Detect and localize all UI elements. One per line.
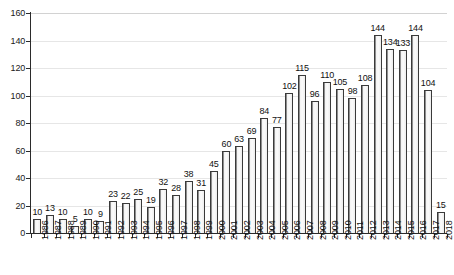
- x-label-2014: 2014: [394, 220, 403, 240]
- x-label-1994: 1994: [142, 220, 151, 240]
- y-tick-label: 60: [1, 147, 25, 156]
- bar-2003: [248, 138, 256, 233]
- bar-value-label: 144: [404, 24, 426, 33]
- bar-value-label: 96: [304, 90, 326, 99]
- x-label-1996: 1996: [167, 220, 176, 240]
- y-tick-mark: [26, 68, 31, 69]
- x-label-2016: 2016: [419, 220, 428, 240]
- x-label-2003: 2003: [256, 220, 265, 240]
- bar-value-label: 31: [190, 179, 212, 188]
- x-label-1986: 1986: [41, 220, 50, 240]
- bar-2009: [323, 82, 331, 233]
- bar-2017: [424, 90, 432, 233]
- bar-2005: [273, 127, 281, 233]
- bar-value-label: 98: [341, 87, 363, 96]
- x-label-1988: 1988: [67, 220, 76, 240]
- y-tick-label: 20: [1, 202, 25, 211]
- x-label-2007: 2007: [306, 220, 315, 240]
- bar-value-label: 77: [266, 116, 288, 125]
- x-tick-mark: [31, 234, 32, 238]
- bar-value-label: 133: [392, 39, 414, 48]
- x-label-1987: 1987: [54, 220, 63, 240]
- x-label-2015: 2015: [407, 220, 416, 240]
- y-tick-mark: [26, 178, 31, 179]
- y-tick-label: 160: [1, 9, 25, 18]
- bar-2006: [285, 93, 293, 233]
- y-tick-label: 120: [1, 64, 25, 73]
- bar-2014: [386, 49, 394, 233]
- x-label-2011: 2011: [356, 221, 365, 240]
- x-label-1992: 1992: [117, 220, 126, 240]
- bar-value-label: 63: [228, 135, 250, 144]
- x-label-2017: 2017: [432, 220, 441, 240]
- y-tick-label: 0: [1, 229, 25, 238]
- x-label-1989: 1989: [79, 220, 88, 240]
- y-tick-label: 140: [1, 37, 25, 46]
- x-label-2009: 2009: [331, 220, 340, 240]
- x-label-2010: 2010: [344, 220, 353, 240]
- y-tick-mark: [26, 123, 31, 124]
- x-label-2012: 2012: [369, 220, 378, 240]
- x-label-2018: 2018: [445, 220, 454, 240]
- bar-value-label: 108: [354, 74, 376, 83]
- gridline: [31, 123, 447, 124]
- bar-2016: [411, 35, 419, 233]
- bar-value-label: 45: [203, 160, 225, 169]
- y-tick-label: 80: [1, 119, 25, 128]
- bar-value-label: 15: [430, 201, 452, 210]
- x-label-2001: 2001: [230, 220, 239, 240]
- y-axis-labels: 020406080100120140160: [0, 0, 25, 275]
- bar-2008: [311, 101, 319, 233]
- y-tick-label: 100: [1, 92, 25, 101]
- bar-value-label: 144: [367, 24, 389, 33]
- gridline: [31, 68, 447, 69]
- gridline: [31, 13, 447, 14]
- x-label-2002: 2002: [243, 220, 252, 240]
- x-label-2008: 2008: [319, 220, 328, 240]
- x-label-1990: 1990: [92, 220, 101, 240]
- x-label-2006: 2006: [293, 220, 302, 240]
- y-tick-label: 40: [1, 174, 25, 183]
- bar-value-label: 19: [140, 196, 162, 205]
- bar-value-label: 69: [241, 127, 263, 136]
- bar-2012: [361, 85, 369, 234]
- bar-2013: [374, 35, 382, 233]
- x-label-2004: 2004: [268, 220, 277, 240]
- x-label-1993: 1993: [130, 220, 139, 240]
- x-label-2013: 2013: [382, 220, 391, 240]
- x-label-2005: 2005: [281, 220, 290, 240]
- x-label-1995: 1995: [155, 220, 164, 240]
- bar-value-label: 102: [278, 82, 300, 91]
- y-tick-mark: [26, 206, 31, 207]
- x-label-1997: 1997: [180, 220, 189, 240]
- y-tick-mark: [26, 151, 31, 152]
- bar-value-label: 115: [291, 64, 313, 73]
- x-label-1991: 1991: [104, 220, 113, 240]
- x-label-1999: 1999: [205, 220, 214, 240]
- bar-value-label: 28: [165, 184, 187, 193]
- bar-2010: [336, 89, 344, 233]
- bar-2015: [399, 50, 407, 233]
- x-label-2000: 2000: [218, 220, 227, 240]
- x-label-1998: 1998: [193, 220, 202, 240]
- gridline: [31, 96, 447, 97]
- bar-value-label: 9: [89, 210, 111, 219]
- bar-value-label: 104: [417, 79, 439, 88]
- bar-2011: [348, 98, 356, 233]
- y-tick-mark: [26, 41, 31, 42]
- y-tick-mark: [26, 13, 31, 14]
- y-tick-mark: [26, 96, 31, 97]
